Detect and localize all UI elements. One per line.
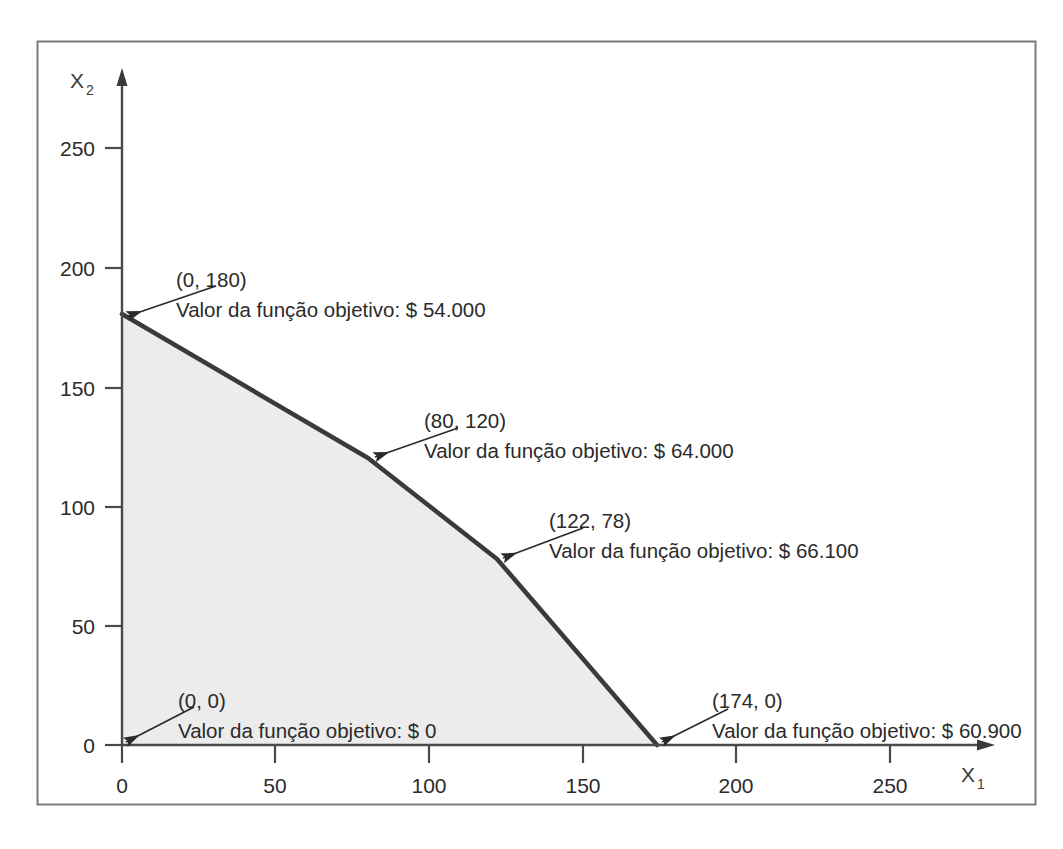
x-tick-label-250: 250 xyxy=(872,774,907,797)
annotation-value-label: Valor da função objetivo: $ 54.000 xyxy=(176,298,486,321)
y-tick-label-250: 250 xyxy=(60,137,95,160)
x-tick-label-150: 150 xyxy=(565,774,600,797)
annotation-80-120: (80, 120) Valor da função objetivo: $ 64… xyxy=(424,409,734,462)
x-axis-ticks xyxy=(122,745,890,763)
y-axis-title: X 2 xyxy=(70,69,94,98)
x-tick-label-100: 100 xyxy=(411,774,446,797)
y-tick-label-200: 200 xyxy=(60,257,95,280)
annotation-174-0: (174, 0) Valor da função objetivo: $ 60.… xyxy=(712,689,1022,742)
y-axis-arrowhead xyxy=(117,68,128,86)
x-axis-title-subscript: 1 xyxy=(977,776,985,792)
y-tick-label-100: 100 xyxy=(60,496,95,519)
y-tick-label-50: 50 xyxy=(72,615,95,638)
annotation-value-label: Valor da função objetivo: $ 60.900 xyxy=(712,719,1022,742)
y-axis-ticks xyxy=(105,148,122,745)
x-tick-label-0: 0 xyxy=(116,774,128,797)
linear-programming-chart: 250 200 150 100 50 0 0 50 100 150 200 25… xyxy=(0,0,1063,849)
annotation-coord-label: (0, 180) xyxy=(176,268,247,291)
annotation-coord-label: (122, 78) xyxy=(549,509,631,532)
figure-container: 250 200 150 100 50 0 0 50 100 150 200 25… xyxy=(0,0,1063,849)
x-axis-tick-labels: 0 50 100 150 200 250 xyxy=(116,774,907,797)
annotation-0-180: (0, 180) Valor da função objetivo: $ 54.… xyxy=(176,268,486,321)
x-tick-label-50: 50 xyxy=(263,774,286,797)
x-axis-title: X 1 xyxy=(961,763,985,792)
y-axis-tick-labels: 250 200 150 100 50 0 xyxy=(60,137,95,757)
annotation-coord-label: (174, 0) xyxy=(712,689,783,712)
y-axis-title-base: X xyxy=(70,69,84,92)
y-axis-title-subscript: 2 xyxy=(86,82,94,98)
annotation-coord-label: (0, 0) xyxy=(178,689,226,712)
annotation-coord-label: (80, 120) xyxy=(424,409,506,432)
y-tick-label-150: 150 xyxy=(60,377,95,400)
x-axis-title-base: X xyxy=(961,763,975,786)
annotation-value-label: Valor da função objetivo: $ 0 xyxy=(178,719,436,742)
annotation-value-label: Valor da função objetivo: $ 66.100 xyxy=(549,539,859,562)
annotation-122-78: (122, 78) Valor da função objetivo: $ 66… xyxy=(549,509,859,562)
annotation-value-label: Valor da função objetivo: $ 64.000 xyxy=(424,439,734,462)
y-tick-label-0: 0 xyxy=(83,734,95,757)
x-tick-label-200: 200 xyxy=(718,774,753,797)
